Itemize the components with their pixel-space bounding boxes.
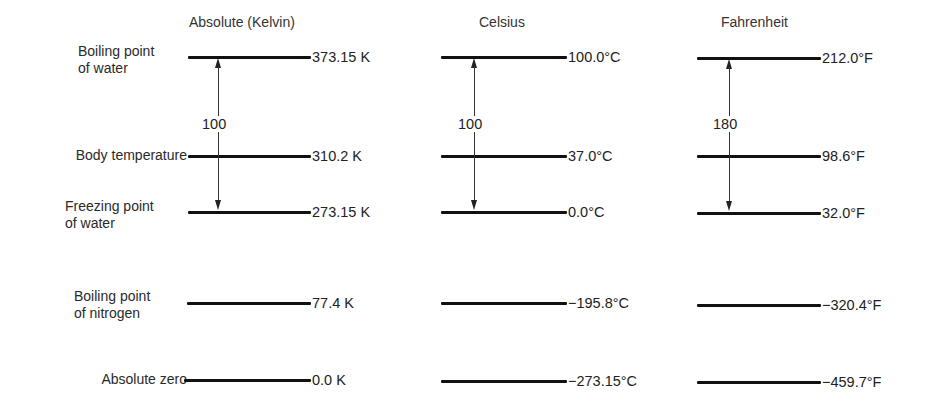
row-label-line1: Body temperature	[76, 147, 187, 164]
kelvin-line-body-temperature	[188, 155, 311, 158]
row-label-line1: Absolute zero	[101, 371, 187, 388]
kelvin-value-boiling-water: 373.15 K	[312, 49, 370, 65]
row-label-body-temperature: Body temperature	[76, 147, 187, 164]
row-label-boiling-water: Boiling point of water	[78, 43, 154, 77]
row-label-freezing-water: Freezing point of water	[65, 198, 154, 232]
celsius-line-absolute-zero	[441, 380, 567, 383]
row-label-line2: of nitrogen	[74, 305, 150, 322]
celsius-value-body-temperature: 37.0°C	[568, 148, 613, 164]
kelvin-value-body-temperature: 310.2 K	[312, 148, 362, 164]
fahrenheit-difference-label: 180	[712, 116, 738, 132]
kelvin-line-absolute-zero	[184, 379, 311, 382]
kelvin-line-boiling-water	[188, 56, 311, 59]
kelvin-value-absolute-zero: 0.0 K	[312, 372, 346, 388]
kelvin-arrow-down-icon	[215, 200, 221, 210]
celsius-value-absolute-zero: −273.15°C	[568, 373, 637, 389]
kelvin-value-boiling-nitrogen: 77.4 K	[312, 295, 354, 311]
kelvin-arrow-shaft	[218, 66, 219, 203]
kelvin-value-freezing-water: 273.15 K	[312, 204, 370, 220]
fahrenheit-value-boiling-water: 212.0°F	[822, 50, 873, 66]
celsius-value-boiling-nitrogen: −195.8°C	[568, 295, 629, 311]
column-title-kelvin: Absolute (Kelvin)	[189, 14, 295, 30]
kelvin-difference-label: 100	[201, 116, 227, 132]
celsius-line-boiling-water	[441, 56, 567, 59]
kelvin-line-boiling-nitrogen	[187, 302, 311, 305]
fahrenheit-arrow-shaft	[729, 67, 730, 204]
celsius-line-freezing-water	[441, 211, 567, 214]
row-label-absolute-zero: Absolute zero	[101, 371, 187, 388]
fahrenheit-value-boiling-nitrogen: −320.4°F	[822, 297, 881, 313]
row-label-line1: Freezing point	[65, 198, 154, 215]
fahrenheit-value-body-temperature: 98.6°F	[822, 148, 865, 164]
column-title-celsius: Celsius	[479, 14, 525, 30]
column-title-fahrenheit: Fahrenheit	[721, 14, 788, 30]
fahrenheit-arrow-down-icon	[726, 201, 732, 211]
fahrenheit-line-boiling-water	[697, 57, 821, 60]
row-label-line1: Boiling point	[78, 43, 154, 60]
celsius-arrow-shaft	[474, 66, 475, 203]
kelvin-line-freezing-water	[188, 211, 311, 214]
celsius-arrow-down-icon	[471, 200, 477, 210]
row-label-line1: Boiling point	[74, 288, 150, 305]
fahrenheit-value-absolute-zero: −459.7°F	[822, 374, 881, 390]
celsius-value-boiling-water: 100.0°C	[568, 49, 621, 65]
fahrenheit-line-freezing-water	[697, 212, 821, 215]
celsius-difference-label: 100	[457, 116, 483, 132]
fahrenheit-value-freezing-water: 32.0°F	[822, 205, 865, 221]
row-label-line2: of water	[78, 60, 154, 77]
fahrenheit-line-boiling-nitrogen	[697, 304, 821, 307]
celsius-line-boiling-nitrogen	[441, 302, 567, 305]
celsius-line-body-temperature	[441, 155, 567, 158]
row-label-line2: of water	[65, 215, 154, 232]
fahrenheit-line-absolute-zero	[697, 381, 821, 384]
celsius-value-freezing-water: 0.0°C	[568, 204, 604, 220]
fahrenheit-line-body-temperature	[697, 155, 821, 158]
row-label-boiling-nitrogen: Boiling point of nitrogen	[74, 288, 150, 322]
